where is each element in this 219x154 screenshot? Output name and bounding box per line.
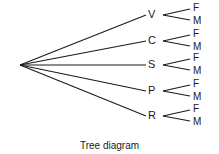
- tree-branches: [0, 0, 219, 154]
- branch-line: [20, 41, 146, 65]
- branch-node: V: [148, 9, 155, 20]
- branch-line: [20, 65, 146, 116]
- branch-line: [20, 65, 146, 91]
- branch-line: [20, 15, 146, 65]
- leaf-line: [163, 110, 190, 116]
- branch-node: C: [148, 35, 156, 46]
- leaf-node: F: [193, 104, 199, 114]
- leaf-node: F: [193, 3, 199, 13]
- leaf-line: [163, 9, 190, 15]
- branch-node: P: [148, 85, 155, 96]
- diagram-caption: Tree diagram: [0, 140, 219, 151]
- leaf-node: F: [193, 79, 199, 89]
- leaf-line: [163, 41, 190, 46]
- leaf-line: [163, 65, 190, 70]
- leaf-node: M: [193, 117, 201, 127]
- branch-node: S: [148, 59, 155, 70]
- leaf-line: [163, 85, 190, 91]
- branch-node: R: [148, 110, 156, 121]
- leaf-node: M: [193, 16, 201, 26]
- leaf-line: [163, 91, 190, 96]
- leaf-line: [163, 116, 190, 121]
- leaf-node: F: [193, 29, 199, 39]
- leaf-node: M: [193, 42, 201, 52]
- leaf-line: [163, 35, 190, 41]
- leaf-line: [163, 59, 190, 65]
- leaf-node: M: [193, 66, 201, 76]
- leaf-line: [163, 15, 190, 20]
- leaf-node: F: [193, 53, 199, 63]
- leaf-node: M: [193, 92, 201, 102]
- tree-diagram: VFMCFMSFMPFMRFM Tree diagram: [0, 0, 219, 154]
